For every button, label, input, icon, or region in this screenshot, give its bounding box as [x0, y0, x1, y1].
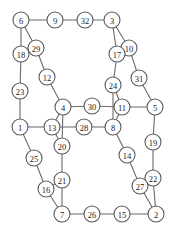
node-label: 2 — [154, 210, 158, 220]
node-label: 17 — [113, 50, 122, 60]
graph-node[interactable]: 27 — [132, 178, 148, 194]
node-label: 20 — [58, 142, 67, 152]
graph-node[interactable]: 18 — [13, 46, 29, 62]
node-label: 11 — [118, 103, 126, 113]
node-label: 12 — [43, 73, 52, 83]
node-label: 31 — [135, 74, 144, 84]
node-label: 23 — [16, 87, 25, 97]
graph-node[interactable]: 17 — [109, 46, 125, 62]
graph-canvas: 6932329101817123123244301151132881920142… — [0, 0, 178, 232]
graph-node[interactable]: 19 — [145, 134, 161, 150]
node-label: 10 — [125, 44, 134, 54]
graph-node[interactable]: 25 — [26, 150, 42, 166]
node-label: 19 — [149, 138, 158, 148]
graph-node[interactable]: 28 — [76, 119, 92, 135]
graph-node[interactable]: 13 — [44, 119, 60, 135]
graph-node[interactable]: 9 — [47, 12, 63, 28]
graph-node[interactable]: 12 — [39, 69, 55, 85]
node-label: 21 — [58, 176, 67, 186]
graph-node[interactable]: 14 — [119, 147, 135, 163]
graph-node[interactable]: 4 — [55, 99, 71, 115]
graph-node[interactable]: 5 — [147, 99, 163, 115]
node-label: 27 — [136, 182, 145, 192]
graph-node[interactable]: 26 — [84, 206, 100, 222]
graph-diagram: 6932329101817123123244301151132881920142… — [0, 0, 178, 232]
node-label: 14 — [123, 151, 132, 161]
node-label: 5 — [153, 103, 157, 113]
node-label: 24 — [109, 81, 118, 91]
graph-node[interactable]: 8 — [105, 119, 121, 135]
graph-node[interactable]: 30 — [84, 98, 100, 114]
node-label: 1 — [18, 123, 22, 133]
graph-node[interactable]: 11 — [114, 99, 130, 115]
graph-node[interactable]: 23 — [12, 83, 28, 99]
node-label: 30 — [88, 102, 97, 112]
node-label: 22 — [149, 174, 158, 184]
node-label: 18 — [17, 50, 26, 60]
node-label: 3 — [110, 16, 114, 26]
node-label: 8 — [111, 123, 115, 133]
graph-node[interactable]: 21 — [54, 172, 70, 188]
graph-node[interactable]: 32 — [77, 12, 93, 28]
node-label: 26 — [88, 210, 97, 220]
graph-node[interactable]: 6 — [13, 12, 29, 28]
node-label: 25 — [30, 154, 39, 164]
node-label: 29 — [32, 44, 41, 54]
node-label: 6 — [19, 16, 23, 26]
node-label: 16 — [42, 185, 51, 195]
graph-node[interactable]: 2 — [148, 206, 164, 222]
graph-node[interactable]: 7 — [54, 206, 70, 222]
graph-node[interactable]: 15 — [114, 206, 130, 222]
node-label: 15 — [118, 210, 127, 220]
graph-node[interactable]: 3 — [104, 12, 120, 28]
node-label: 9 — [53, 16, 57, 26]
node-label: 13 — [48, 123, 57, 133]
graph-node[interactable]: 1 — [12, 119, 28, 135]
graph-node[interactable]: 16 — [38, 181, 54, 197]
node-label: 28 — [80, 123, 89, 133]
graph-node[interactable]: 31 — [131, 70, 147, 86]
graph-node[interactable]: 20 — [54, 138, 70, 154]
node-label: 7 — [60, 210, 64, 220]
nodes-layer: 6932329101817123123244301151132881920142… — [12, 12, 164, 222]
node-label: 32 — [81, 16, 90, 26]
graph-node[interactable]: 24 — [105, 77, 121, 93]
graph-node[interactable]: 29 — [28, 40, 44, 56]
